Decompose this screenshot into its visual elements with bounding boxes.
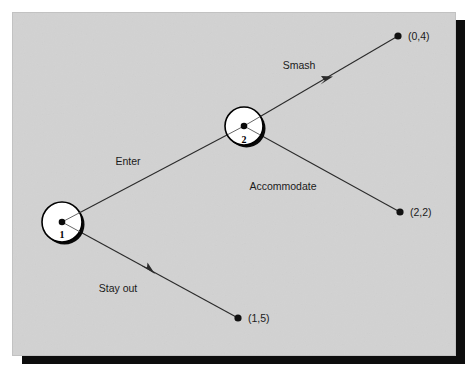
edge-label-accommodate: Accommodate — [249, 180, 316, 192]
payoff-label-2-2: (2,2) — [410, 206, 432, 218]
terminal-dot-1-5 — [234, 314, 241, 321]
panel-shadow-bottom — [22, 356, 465, 364]
game-tree-figure: 1 2 Enter Stay out Smash Accommodate — [0, 0, 475, 373]
node-1-center-dot — [59, 219, 66, 226]
edge-label-stay-out: Stay out — [99, 282, 138, 294]
panel-texture — [12, 12, 456, 356]
payoff-label-1-5: (1,5) — [248, 312, 270, 324]
edge-label-enter: Enter — [115, 155, 141, 167]
terminal-dot-2-2 — [396, 208, 403, 215]
edge-label-smash: Smash — [283, 59, 316, 71]
panel-shadow-right — [456, 20, 465, 364]
node-1-label: 1 — [60, 229, 65, 240]
terminal-dot-0-4 — [394, 32, 401, 39]
payoff-label-0-4: (0,4) — [408, 30, 430, 42]
node-2-label: 2 — [242, 134, 247, 145]
game-tree-canvas: 1 2 Enter Stay out Smash Accommodate — [0, 0, 475, 373]
node-2-center-dot — [241, 123, 248, 130]
illustration-panel — [12, 12, 456, 356]
